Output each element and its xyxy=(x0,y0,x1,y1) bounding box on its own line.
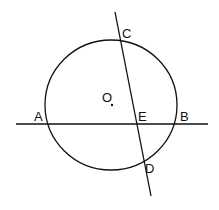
label-d: D xyxy=(145,161,154,176)
label-b: B xyxy=(180,109,189,124)
geometry-diagram: O A B C D E xyxy=(0,0,219,210)
label-c: C xyxy=(122,26,131,41)
label-o: O xyxy=(102,90,112,105)
label-a: A xyxy=(34,109,43,124)
label-e: E xyxy=(138,109,147,124)
